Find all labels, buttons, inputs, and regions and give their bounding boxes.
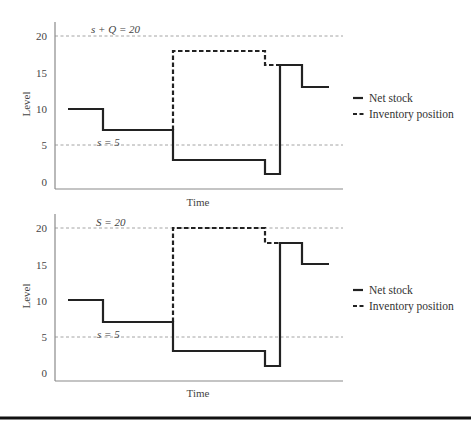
y-tick: 15: [36, 67, 48, 79]
y-tick: 10: [36, 295, 48, 307]
net-stock-line: [68, 65, 329, 174]
net-stock-line: [68, 243, 329, 366]
legend-net-stock: Net stock: [369, 92, 413, 104]
reference-label-top: s + Q = 20: [91, 23, 141, 35]
legend-inventory-position: Inventory position: [369, 108, 454, 121]
chart-bottom: 20 15 10 5 0 Level Time S = 20 s = 5 Net…: [20, 214, 454, 399]
legend-net-stock: Net stock: [369, 284, 413, 296]
reference-label-top: S = 20: [96, 216, 126, 228]
reference-label-bottom: s = 5: [97, 136, 120, 148]
legend: Net stock Inventory position: [353, 284, 454, 313]
legend: Net stock Inventory position: [353, 92, 454, 121]
legend-inventory-position: Inventory position: [369, 300, 454, 313]
chart-top: 20 15 10 5 0 Level Time s + Q = 20 s = 5…: [20, 22, 454, 208]
y-tick: 15: [36, 259, 48, 271]
y-axis-label: Level: [20, 283, 32, 308]
x-axis-label: Time: [187, 387, 210, 399]
y-tick: 20: [36, 30, 48, 42]
figure: 20 15 10 5 0 Level Time s + Q = 20 s = 5…: [0, 0, 471, 425]
inventory-position-line: [173, 51, 280, 130]
y-axis-label: Level: [20, 91, 32, 116]
y-tick: 0: [42, 367, 48, 379]
y-tick: 0: [42, 176, 48, 188]
reference-label-bottom: s = 5: [97, 328, 120, 340]
x-axis-label: Time: [187, 196, 210, 208]
y-tick: 5: [42, 139, 48, 151]
y-tick: 20: [36, 222, 48, 234]
inventory-position-line: [173, 228, 280, 322]
y-tick: 10: [36, 103, 48, 115]
y-tick: 5: [42, 331, 48, 343]
